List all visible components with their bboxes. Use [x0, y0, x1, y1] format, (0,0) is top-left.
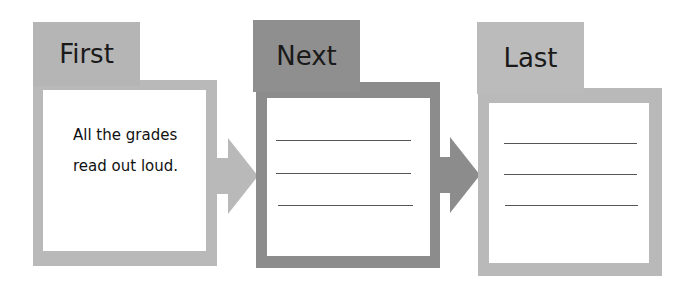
panel-first-text-line-1: All the grades [73, 120, 178, 151]
panel-first-card: All the grades read out loud. [43, 90, 206, 251]
panel-first-title: First [59, 39, 114, 69]
answer-line-3[interactable] [505, 205, 638, 206]
panel-first-tab: First [33, 22, 140, 86]
answer-line-2[interactable] [276, 173, 411, 174]
panel-first-text: All the grades read out loud. [73, 120, 178, 182]
arrow-right-icon [216, 138, 260, 214]
panel-next-title: Next [276, 41, 337, 71]
answer-line-2[interactable] [504, 174, 637, 175]
arrow-right-icon [438, 137, 482, 213]
answer-line-1[interactable] [276, 140, 411, 141]
panel-first-text-line-2: read out loud. [73, 151, 178, 182]
panel-last-title: Last [503, 43, 557, 73]
panel-next-card [267, 98, 430, 256]
panel-last-card [489, 103, 649, 263]
answer-line-3[interactable] [278, 205, 413, 206]
panel-last-tab: Last [477, 22, 584, 94]
answer-line-1[interactable] [504, 143, 637, 144]
panel-next-tab: Next [253, 20, 360, 92]
